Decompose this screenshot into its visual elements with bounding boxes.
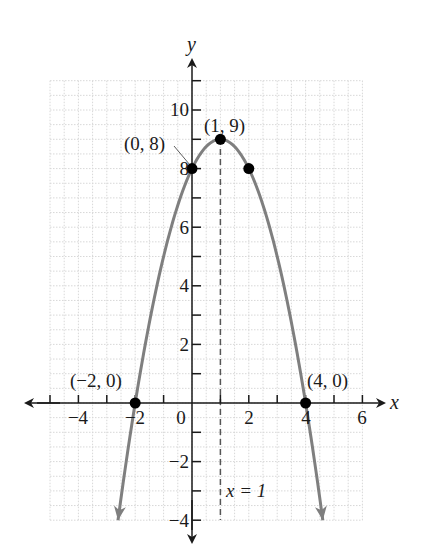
y-tick-label-4: 4 (180, 275, 190, 296)
y-tick-label-m2: −2 (169, 451, 189, 472)
x-tick-label-0: 0 (176, 407, 186, 428)
x-axis-label: x (389, 391, 399, 413)
parabola-graph: −4 −2 0 2 4 6 10 8 6 4 2 −2 −4 x y (−2, … (0, 0, 428, 560)
y-tick-label-10: 10 (170, 99, 189, 120)
point-2-8 (243, 163, 254, 174)
point-label-0-8: (0, 8) (124, 133, 165, 155)
y-tick-label-2: 2 (180, 334, 190, 355)
axis-of-symmetry-label: x = 1 (225, 480, 266, 501)
x-tick-label-m4: −4 (68, 407, 89, 428)
y-tick-label-6: 6 (180, 217, 190, 238)
x-tick-label-m2: −2 (125, 407, 145, 428)
y-axis-label: y (185, 33, 196, 56)
point-label-4-0: (4, 0) (307, 370, 348, 392)
x-tick-label-2: 2 (244, 407, 254, 428)
chart-canvas: −4 −2 0 2 4 6 10 8 6 4 2 −2 −4 x y (−2, … (0, 0, 428, 560)
y-tick-label-8: 8 (180, 158, 190, 179)
y-tick-label-m4: −4 (169, 510, 190, 531)
x-tick-label-6: 6 (357, 407, 367, 428)
point-label-1-9: (1, 9) (204, 115, 245, 137)
x-tick-label-4: 4 (301, 407, 311, 428)
point-label-neg2-0: (−2, 0) (70, 370, 122, 392)
